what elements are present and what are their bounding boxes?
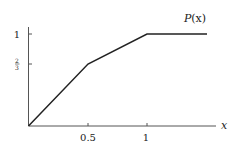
svg-text:2: 2 xyxy=(15,57,19,64)
x-tick-label-0.5: 0.5 xyxy=(80,132,96,143)
x-tick-label-1: 1 xyxy=(143,132,149,143)
x-axis-label: x xyxy=(221,119,228,132)
y-tick-label-1: 1 xyxy=(14,29,20,40)
chart: 0.5 1 x 1 2 3 P(x) xyxy=(0,0,235,148)
curve-label: P(x) xyxy=(183,12,206,25)
svg-text:3: 3 xyxy=(15,64,19,71)
y-tick-label-2-3: 2 3 xyxy=(15,57,20,71)
curve-P xyxy=(29,34,208,126)
